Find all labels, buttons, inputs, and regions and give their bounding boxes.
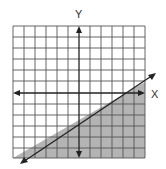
x-axis-label: X [151, 89, 158, 100]
x-axis-left-arrow-icon [13, 90, 20, 96]
boundary-line-end-arrow-icon [148, 73, 156, 80]
inequality-graph [0, 0, 166, 169]
y-axis-up-arrow-icon [76, 26, 82, 33]
y-axis-label: Y [75, 9, 82, 20]
